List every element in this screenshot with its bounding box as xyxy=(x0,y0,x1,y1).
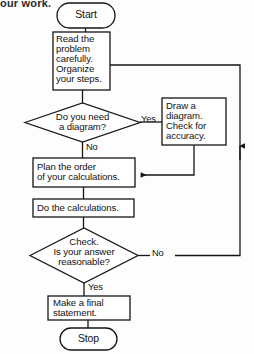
plan-order-box-label: Plan the order of your calculations. xyxy=(37,162,135,182)
stop-terminator-label: Stop xyxy=(60,333,117,344)
do-calculations-box-label: Do the calculations. xyxy=(37,203,133,213)
need-diagram-decision-label: Do you need a diagram? xyxy=(33,112,132,132)
read-problem-box-label: Read the problem carefully. Organize you… xyxy=(56,34,110,83)
final-statement-box-label: Make a final statement. xyxy=(53,298,129,318)
branch-label-check-yes: Yes xyxy=(88,283,103,293)
branch-label-check-no: No xyxy=(152,249,164,259)
branch-label-diagram-yes: Yes xyxy=(141,115,156,125)
start-terminator-label: Start xyxy=(57,9,115,20)
branch-label-diagram-no: No xyxy=(86,143,98,153)
draw-diagram-box-label: Draw a diagram. Check for accuracy. xyxy=(166,101,226,141)
connector-draw-back-to-plan xyxy=(141,145,194,175)
check-answer-decision-label: Check. Is your answer reasonable? xyxy=(35,237,133,267)
flowchart-page: our work. xyxy=(0,0,254,354)
